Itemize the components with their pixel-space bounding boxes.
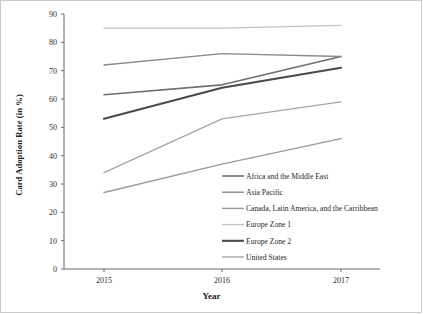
series-line [104,139,341,193]
y-tick-label: 70 [49,67,57,76]
y-axis-ticks: 0102030405060708090 [49,10,64,274]
series-line [104,54,341,65]
y-tick-label: 50 [49,123,57,132]
y-tick-label: 30 [49,180,57,189]
y-tick-label: 10 [49,237,57,246]
y-tick-label: 80 [49,38,57,47]
series-line [104,25,341,28]
y-tick-label: 60 [49,95,57,104]
chart-figure: Card Adoption Rate (in %) Year 010203040… [0,0,423,314]
series-line [104,102,341,173]
y-tick-label: 0 [53,265,57,274]
chart-legend: Africa and the Middle EastAsia PacificCa… [222,172,378,262]
legend-label: Asia Pacific [246,188,284,197]
data-series-group [104,25,341,192]
y-axis-title: Card Adoption Rate (in %) [14,40,24,250]
x-tick-label: 2016 [214,276,230,285]
y-tick-label: 20 [49,208,57,217]
series-line [104,68,341,119]
x-axis-title: Year [0,291,423,301]
line-chart-plot: 0102030405060708090 201520162017 Africa … [0,0,423,314]
y-axis-group: 0102030405060708090 [49,10,64,274]
legend-label: Europe Zone 2 [246,237,291,246]
x-tick-label: 2015 [96,276,112,285]
x-axis-group: 201520162017 [64,269,380,285]
legend-label: Europe Zone 1 [246,220,291,229]
legend-label: Africa and the Middle East [246,172,329,181]
x-axis-ticks: 201520162017 [96,269,349,285]
legend-label: United States [246,253,287,262]
x-tick-label: 2017 [333,276,349,285]
legend-label: Canada, Latin America, and the Carribbea… [246,204,378,213]
y-tick-label: 90 [49,10,57,19]
y-tick-label: 40 [49,152,57,161]
